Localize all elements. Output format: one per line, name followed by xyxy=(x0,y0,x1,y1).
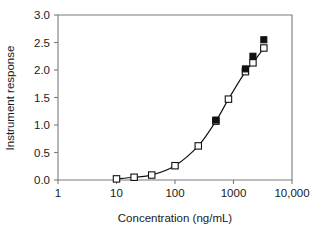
y-tick-label: 2.0 xyxy=(34,64,50,76)
data-marker-open xyxy=(131,174,137,180)
x-tick-label: 10 xyxy=(110,187,123,199)
data-marker-filled xyxy=(261,37,267,43)
x-tick-label: 100 xyxy=(165,187,184,199)
y-tick-label: 0.0 xyxy=(34,174,50,186)
data-marker-open xyxy=(172,163,178,169)
chart-background xyxy=(0,0,320,235)
y-axis-title: Instrument response xyxy=(4,46,16,151)
data-marker-open xyxy=(261,45,267,51)
x-tick-label: 1000 xyxy=(221,187,247,199)
data-marker-open xyxy=(195,143,201,149)
data-marker-filled xyxy=(242,66,248,72)
y-tick-label: 1.5 xyxy=(34,92,50,104)
data-marker-open xyxy=(225,96,231,102)
x-tick-label: 1 xyxy=(55,187,61,199)
y-tick-label: 0.5 xyxy=(34,147,50,159)
x-axis-title: Concentration (ng/mL) xyxy=(118,212,233,224)
data-marker-filled xyxy=(213,117,219,123)
data-marker-open xyxy=(149,172,155,178)
y-tick-label: 1.0 xyxy=(34,119,50,131)
x-tick-label: 10,000 xyxy=(274,187,309,199)
data-marker-open xyxy=(113,176,119,182)
y-tick-label: 3.0 xyxy=(34,9,50,21)
chart-figure: 0.00.51.01.52.02.53.0 110100100010,000 C… xyxy=(0,0,320,235)
y-tick-label: 2.5 xyxy=(34,37,50,49)
calibration-curve-chart: 0.00.51.01.52.02.53.0 110100100010,000 C… xyxy=(0,0,320,235)
data-marker-open xyxy=(250,60,256,66)
data-marker-filled xyxy=(250,53,256,59)
